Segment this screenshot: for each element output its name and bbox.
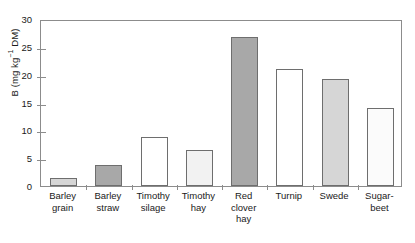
- y-axis-tick-label: 15: [12, 99, 32, 109]
- x-axis-category-label: Swede: [312, 190, 357, 202]
- bar: [50, 178, 77, 186]
- x-axis-category-label-line: hay: [221, 213, 266, 225]
- x-axis-category-label-line: silage: [131, 202, 176, 214]
- x-axis-category-label: Timothyhay: [176, 190, 221, 213]
- x-axis-category-label: Redcloverhay: [221, 190, 266, 225]
- y-axis-tick-label: 10: [12, 127, 32, 137]
- x-axis-category-label: Sugar-beet: [357, 190, 402, 213]
- bar: [141, 137, 168, 186]
- x-axis-category-label-line: Barley: [40, 190, 85, 202]
- y-axis-tick-label: 5: [12, 154, 32, 164]
- x-axis-category-label-line: Turnip: [266, 190, 311, 202]
- x-axis-category-label-line: grain: [40, 202, 85, 214]
- x-axis-category-label-line: beet: [357, 202, 402, 214]
- bar: [322, 79, 349, 186]
- x-axis-category-label-line: straw: [85, 202, 130, 214]
- x-axis-category-label: Barleystraw: [85, 190, 130, 213]
- y-axis-tick-labels: 051015202530: [10, 0, 32, 243]
- x-axis-category-label: Barleygrain: [40, 190, 85, 213]
- x-axis-category-label-line: Sugar-: [357, 190, 402, 202]
- y-axis-tick-label: 30: [12, 15, 32, 25]
- x-axis-category-label-line: Timothy: [131, 190, 176, 202]
- y-axis-tick-mark: [37, 132, 46, 133]
- y-axis-tick-mark: [37, 49, 46, 50]
- bar: [186, 150, 213, 186]
- y-axis-tick-label: 25: [12, 43, 32, 53]
- x-axis-category-label: Timothysilage: [131, 190, 176, 213]
- y-axis-tick-mark: [37, 77, 46, 78]
- x-axis-category-label-line: clover: [221, 202, 266, 214]
- x-axis-category-label-line: Timothy: [176, 190, 221, 202]
- y-axis-tick-label: 20: [12, 71, 32, 81]
- bar: [367, 108, 394, 186]
- x-axis-category-labels: BarleygrainBarleystrawTimothysilageTimot…: [40, 190, 402, 243]
- bar: [95, 165, 122, 186]
- plot-area: [40, 20, 402, 187]
- bar: [231, 37, 258, 186]
- x-axis-category-label-line: Swede: [312, 190, 357, 202]
- bar: [276, 69, 303, 186]
- y-axis-tick-label: 0: [12, 182, 32, 192]
- x-axis-category-label-line: hay: [176, 202, 221, 214]
- x-axis-category-label: Turnip: [266, 190, 311, 202]
- y-axis-tick-mark: [37, 160, 46, 161]
- bar-chart-figure: B (mg kg−1 DM) 051015202530 BarleygrainB…: [0, 0, 415, 243]
- x-axis-category-label-line: Red: [221, 190, 266, 202]
- x-axis-category-label-line: Barley: [85, 190, 130, 202]
- y-axis-tick-mark: [37, 105, 46, 106]
- bar-series: [41, 21, 401, 186]
